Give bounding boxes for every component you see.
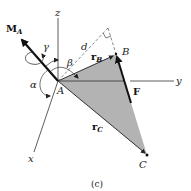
- z-axis-label: z: [54, 7, 61, 18]
- point-A-label: A: [56, 85, 64, 96]
- rC-label: rC: [92, 121, 103, 134]
- y-axis-label: y: [175, 75, 182, 86]
- x-axis: [34, 81, 58, 152]
- x-axis-label: x: [28, 153, 34, 164]
- moment-MA-label: MA: [6, 23, 23, 36]
- angle-gamma-arc: [46, 60, 58, 66]
- line-of-action-dashed: [108, 28, 116, 54]
- figure-caption: (c): [91, 179, 103, 189]
- point-B-dot: [115, 53, 117, 55]
- force-F-label: F: [133, 86, 140, 97]
- point-B-label: B: [121, 46, 129, 57]
- angle-beta-label: β: [66, 57, 73, 68]
- triangle-ABC: [58, 54, 147, 155]
- angle-alpha-arc: [40, 70, 50, 96]
- moment-about-point-diagram: z y x A B C MA F rB rC d γ β α (c): [0, 0, 191, 191]
- distance-d-label: d: [81, 41, 87, 52]
- rB-label: rB: [91, 51, 102, 64]
- point-C-label: C: [139, 159, 147, 170]
- angle-alpha-label: α: [30, 79, 37, 90]
- moment-MA-arrow: [22, 40, 58, 81]
- angle-gamma-label: γ: [43, 41, 49, 52]
- point-C-dot: [146, 154, 149, 157]
